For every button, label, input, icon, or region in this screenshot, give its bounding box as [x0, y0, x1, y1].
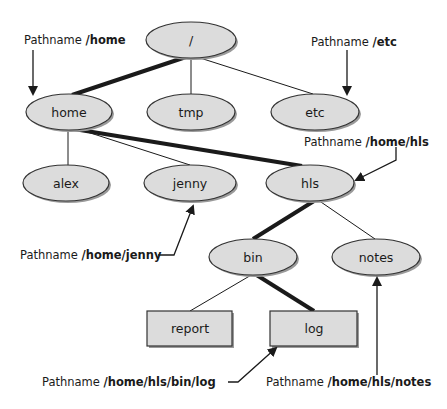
arrow-jenny	[158, 206, 193, 255]
edge-root-home	[72, 57, 186, 95]
edge-home-hls	[74, 129, 302, 166]
node-label-etc: etc	[305, 105, 325, 120]
edge-hls-notes	[318, 200, 375, 239]
callout-jenny: Pathname /home/jenny	[20, 248, 162, 262]
node-label-log: log	[304, 321, 323, 336]
node-label-tmp: tmp	[178, 105, 203, 120]
node-alex: alex	[23, 165, 111, 203]
callout-hls: Pathname /home/hls	[304, 135, 429, 149]
filesystem-tree-diagram: / home tmp etc alex jenny hls bin notes	[0, 0, 447, 409]
callout-home: Pathname /home	[24, 33, 126, 47]
node-label-home: home	[51, 105, 87, 120]
node-notes: notes	[332, 239, 422, 277]
edge-bin-log	[255, 274, 314, 311]
node-label-bin: bin	[243, 250, 262, 265]
node-tmp: tmp	[147, 94, 237, 132]
edge-hls-bin	[253, 201, 314, 239]
node-home: home	[26, 94, 114, 132]
node-label-notes: notes	[359, 250, 394, 265]
node-hls: hls	[266, 165, 356, 203]
node-jenny: jenny	[144, 165, 238, 203]
arrow-hls	[356, 147, 396, 180]
callout-etc: Pathname /etc	[311, 35, 397, 49]
edge-bin-report	[190, 274, 253, 311]
node-report: report	[147, 311, 234, 348]
node-root: /	[146, 22, 238, 60]
node-label-hls: hls	[301, 176, 319, 191]
callout-log: Pathname /home/hls/bin/log	[42, 375, 216, 389]
edge-root-etc	[197, 57, 313, 94]
node-label-report: report	[171, 321, 209, 336]
node-log: log	[270, 311, 359, 348]
callout-notes: Pathname /home/hls/notes	[266, 375, 431, 389]
node-etc: etc	[271, 94, 361, 132]
node-label-jenny: jenny	[172, 176, 208, 191]
node-label-alex: alex	[53, 176, 79, 191]
node-bin: bin	[209, 239, 299, 277]
